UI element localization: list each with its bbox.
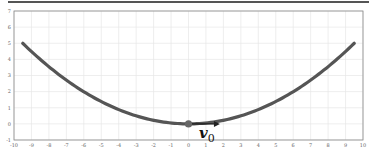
- y-tick-label: 5: [8, 40, 11, 46]
- vector-label: v0: [199, 124, 215, 145]
- x-tick-label: -4: [116, 142, 121, 148]
- x-tick-label: 2: [222, 142, 225, 148]
- x-tick-label: -7: [64, 142, 69, 148]
- origin-point: [185, 120, 192, 127]
- x-tick-label: 7: [309, 142, 312, 148]
- x-tick-label: 6: [292, 142, 295, 148]
- x-tick-label: -5: [99, 142, 104, 148]
- x-tick-label: -10: [10, 142, 18, 148]
- x-axis-ticks: -10-9-8-7-6-5-4-3-2-1012345678910: [10, 142, 366, 148]
- x-tick-label: -6: [81, 142, 86, 148]
- x-tick-label: -9: [29, 142, 34, 148]
- x-tick-label: -1: [169, 142, 174, 148]
- y-tick-label: 4: [8, 56, 11, 62]
- chart: -10-9-8-7-6-5-4-3-2-1012345678910 -10123…: [0, 0, 369, 156]
- x-tick-label: -3: [134, 142, 139, 148]
- y-tick-label: 3: [8, 72, 11, 78]
- x-tick-label: 10: [360, 142, 366, 148]
- y-tick-label: 6: [8, 24, 11, 30]
- x-tick-label: 3: [239, 142, 242, 148]
- y-tick-label: 0: [8, 121, 11, 127]
- x-tick-label: -2: [151, 142, 156, 148]
- x-tick-label: 8: [327, 142, 330, 148]
- y-tick-label: -1: [6, 137, 11, 143]
- x-tick-label: 0: [187, 142, 190, 148]
- y-tick-label: 7: [8, 8, 11, 14]
- x-tick-label: -8: [46, 142, 51, 148]
- x-tick-label: 5: [274, 142, 277, 148]
- y-tick-label: 1: [8, 105, 11, 111]
- y-tick-label: 2: [8, 88, 11, 94]
- x-tick-label: 4: [257, 142, 260, 148]
- y-axis-ticks: -101234567: [6, 8, 11, 143]
- x-tick-label: 9: [344, 142, 347, 148]
